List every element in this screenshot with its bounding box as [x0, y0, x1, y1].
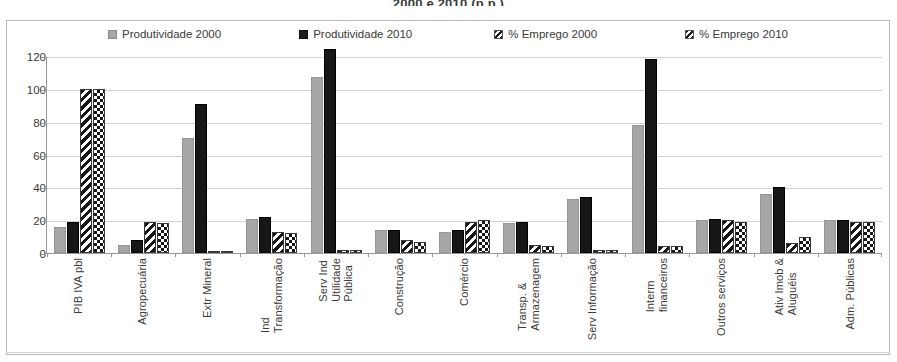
chart-legend: Produtividade 2000Produtividade 2010% Em…	[6, 24, 890, 44]
bar[interactable]	[401, 240, 413, 253]
y-axis-tick-mark	[41, 254, 46, 255]
bar[interactable]	[388, 230, 400, 253]
bar[interactable]	[452, 230, 464, 253]
bar[interactable]	[375, 230, 387, 253]
bar[interactable]	[157, 223, 169, 253]
legend-item-3[interactable]: % Emprego 2000	[494, 28, 597, 40]
bar[interactable]	[799, 237, 811, 253]
legend-item-2[interactable]: Produtividade 2010	[299, 28, 412, 40]
bar[interactable]	[208, 251, 220, 253]
bar[interactable]	[80, 89, 92, 253]
bar[interactable]	[529, 245, 541, 253]
x-axis-tick-label: Extr Mineral	[201, 258, 214, 318]
bar[interactable]	[786, 243, 798, 253]
bar[interactable]	[567, 199, 579, 253]
bar[interactable]	[632, 125, 644, 253]
bar[interactable]	[709, 219, 721, 253]
bar[interactable]	[722, 220, 734, 253]
x-axis-label-cell: Transp. & Armazenagem	[496, 258, 560, 356]
bar-group	[368, 57, 432, 253]
x-axis-tick-label: Agropecuária	[136, 258, 149, 325]
bar[interactable]	[67, 222, 79, 253]
bar[interactable]	[760, 194, 772, 253]
bar[interactable]	[337, 250, 349, 253]
bar[interactable]	[735, 222, 747, 253]
x-axis-tick-label: PIB IVA pbl	[72, 258, 85, 314]
bar[interactable]	[478, 220, 490, 253]
bar[interactable]	[645, 59, 657, 253]
plot-area	[46, 57, 882, 254]
bar[interactable]	[324, 49, 336, 253]
chart-bottom-rule	[6, 352, 890, 353]
x-axis-label-cell: Agropecuária	[110, 258, 174, 356]
x-axis-tick-label: Ind Transformação	[259, 258, 284, 333]
y-axis-tick-label: 80	[6, 117, 46, 129]
bar[interactable]	[863, 222, 875, 253]
x-axis-tick-label: Adm. Públicas	[844, 258, 857, 330]
legend-swatch-produtividade-2010	[299, 30, 308, 39]
x-axis-label-cell: Construção	[368, 258, 432, 356]
bar[interactable]	[850, 222, 862, 253]
bar-group	[818, 57, 882, 253]
x-axis-label-cell: Outros serviços	[689, 258, 753, 356]
x-axis-label-cell: Serv Ind Utilidade Pública	[303, 258, 367, 356]
bar[interactable]	[516, 222, 528, 253]
legend-swatch-emprego-2000	[494, 30, 503, 39]
y-axis-tick-label: 100	[6, 84, 46, 96]
bar[interactable]	[259, 217, 271, 253]
bar[interactable]	[465, 222, 477, 253]
bar[interactable]	[131, 240, 143, 253]
bar[interactable]	[93, 89, 105, 253]
bar[interactable]	[246, 219, 258, 253]
bar[interactable]	[658, 246, 670, 253]
bar[interactable]	[195, 104, 207, 253]
bar[interactable]	[542, 246, 554, 253]
bar[interactable]	[606, 250, 618, 253]
x-axis-label-cell: PIB IVA pbl	[46, 258, 110, 356]
y-axis-tick-label: 20	[6, 215, 46, 227]
bar[interactable]	[221, 251, 233, 253]
bar[interactable]	[272, 232, 284, 253]
x-axis-tick-label: Serv Ind Utilidade Pública	[317, 258, 355, 302]
bar[interactable]	[285, 233, 297, 253]
x-axis-label-cell: Adm. Públicas	[818, 258, 882, 356]
x-axis-tick-label: Outros serviços	[715, 258, 728, 336]
y-axis-tick-label: 60	[6, 150, 46, 162]
bar[interactable]	[414, 242, 426, 253]
legend-item-4[interactable]: % Emprego 2010	[685, 28, 788, 40]
chart-container: 2000 e 2010 (p.p.) Produtividade 2000Pro…	[0, 0, 897, 362]
bar[interactable]	[671, 246, 683, 253]
legend-item-label: Produtividade 2000	[122, 28, 221, 40]
x-axis-label-cell: Ativ Imob & Aluguéis	[753, 258, 817, 356]
bar-group	[47, 57, 111, 253]
bar-group	[625, 57, 689, 253]
bar[interactable]	[593, 250, 605, 253]
x-axis-tick-label: Serv Informação	[586, 258, 599, 340]
bar[interactable]	[503, 223, 515, 253]
bar[interactable]	[350, 250, 362, 253]
legend-swatch-produtividade-2000	[108, 30, 117, 39]
bar-group	[240, 57, 304, 253]
x-axis-labels: PIB IVA pblAgropecuáriaExtr MineralInd T…	[46, 258, 882, 356]
x-axis-tick-label: Ativ Imob & Aluguéis	[773, 258, 798, 315]
bar[interactable]	[837, 220, 849, 253]
bar[interactable]	[311, 77, 323, 253]
bar[interactable]	[439, 232, 451, 253]
y-axis: 020406080100120	[0, 57, 46, 254]
x-axis-label-cell: Ind Transformação	[239, 258, 303, 356]
x-axis-label-cell: Serv Informação	[561, 258, 625, 356]
bar[interactable]	[118, 245, 130, 253]
bar[interactable]	[696, 220, 708, 253]
bar[interactable]	[824, 220, 836, 253]
legend-item-label: % Emprego 2000	[508, 28, 597, 40]
bar[interactable]	[580, 197, 592, 253]
bar[interactable]	[144, 222, 156, 253]
legend-item-1[interactable]: Produtividade 2000	[108, 28, 221, 40]
bar-group	[432, 57, 496, 253]
bar[interactable]	[773, 187, 785, 253]
bar[interactable]	[54, 227, 66, 253]
y-axis-tick-label: 0	[6, 248, 46, 260]
bar-group	[561, 57, 625, 253]
y-axis-tick-label: 120	[6, 51, 46, 63]
bar[interactable]	[182, 138, 194, 253]
